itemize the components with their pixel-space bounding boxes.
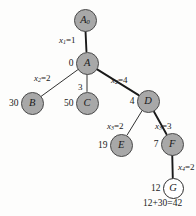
node-g: G [163, 178, 184, 199]
node-label-a0: A0 [80, 15, 89, 26]
edge-f-g [172, 155, 173, 177]
edge-label-a0-a: x1=1 [59, 36, 76, 46]
node-label-d: D [144, 96, 151, 107]
edge-a0-a [86, 31, 87, 51]
edge-label-a-b: x2=2 [34, 74, 51, 84]
edge-label-a-d: x2=4 [111, 76, 128, 86]
node-label-a: A [84, 58, 90, 69]
node-value-f: 7 [0, 140, 159, 150]
edge-label-f-g: x4=2 [178, 163, 195, 173]
edge-label-d-f: x3=3 [155, 122, 172, 132]
node-label-f: F [169, 139, 175, 150]
node-label-g: G [169, 183, 176, 194]
result-caption: 12+30=42 [143, 199, 182, 209]
node-f: F [161, 133, 184, 156]
node-subscript-a0: 0 [86, 18, 89, 25]
node-a0: A0 [74, 9, 97, 32]
node-value-a: 0 [0, 59, 74, 69]
node-value-g: 12 [0, 184, 161, 194]
node-a: A [76, 52, 99, 75]
node-value-d: 4 [0, 97, 135, 107]
edge-d-e [127, 111, 142, 135]
edge-label-d-e: x3=2 [107, 122, 124, 132]
tree-diagram: A0A0B30C50D4E19F7G12 x1=1x2=23x2=4x3=2x3… [0, 0, 196, 216]
edge-label-a-c: 3 [78, 83, 83, 92]
node-d: D [137, 90, 160, 113]
